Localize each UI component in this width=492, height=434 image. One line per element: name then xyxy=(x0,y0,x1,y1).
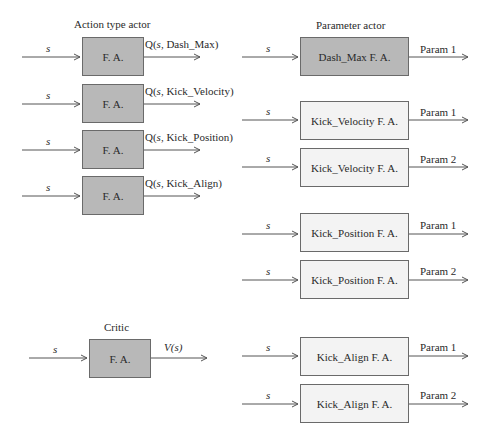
param-box-dash-max: Dash_Max F. A. xyxy=(300,37,409,76)
param-box-kick-velocity-1: Kick_Velocity F. A. xyxy=(300,101,409,140)
parameter-actor-title: Parameter actor xyxy=(316,19,385,31)
param-output: Param 2 xyxy=(420,389,456,401)
q-output-dash-max: Q(s, Dash_Max) xyxy=(145,38,218,50)
param-output: Param 2 xyxy=(420,153,456,165)
critic-title: Critic xyxy=(104,321,129,333)
param-output: Param 1 xyxy=(420,43,456,55)
input-label: s xyxy=(266,265,270,277)
param-box-kick-align-2: Kick_Align F. A. xyxy=(300,384,409,423)
input-label: s xyxy=(266,341,270,353)
input-label: s xyxy=(46,42,50,54)
q-output-kick-position: Q(s, Kick_Position) xyxy=(145,131,233,143)
input-label: s xyxy=(266,42,270,54)
param-box-kick-align-1: Kick_Align F. A. xyxy=(300,337,409,376)
param-box-kick-position-2: Kick_Position F. A. xyxy=(300,260,409,299)
input-label: s xyxy=(53,343,57,355)
critic-fa-box: F. A. xyxy=(89,339,151,378)
action-fa-box-kick-position: F. A. xyxy=(82,130,144,169)
param-output: Param 1 xyxy=(420,341,456,353)
arrows-layer xyxy=(0,0,492,434)
input-label: s xyxy=(266,152,270,164)
q-output-kick-align: Q(s, Kick_Align) xyxy=(145,177,222,189)
critic-output-value: V(s) xyxy=(164,341,182,353)
input-label: s xyxy=(46,181,50,193)
param-box-kick-velocity-2: Kick_Velocity F. A. xyxy=(300,148,409,187)
input-label: s xyxy=(266,219,270,231)
param-output: Param 2 xyxy=(420,265,456,277)
param-output: Param 1 xyxy=(420,106,456,118)
action-fa-box-kick-align: F. A. xyxy=(82,176,144,215)
input-label: s xyxy=(46,89,50,101)
param-box-kick-position-1: Kick_Position F. A. xyxy=(300,213,409,252)
action-type-actor-title: Action type actor xyxy=(74,18,150,30)
input-label: s xyxy=(266,105,270,117)
q-output-kick-velocity: Q(s, Kick_Velocity) xyxy=(145,85,234,97)
action-fa-box-dash-max: F. A. xyxy=(82,37,144,76)
input-label: s xyxy=(266,389,270,401)
action-fa-box-kick-velocity: F. A. xyxy=(82,84,144,123)
param-output: Param 1 xyxy=(420,219,456,231)
input-label: s xyxy=(46,135,50,147)
